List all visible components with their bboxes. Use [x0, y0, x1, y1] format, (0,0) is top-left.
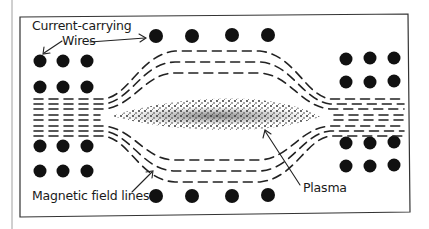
wires-left-block: [34, 55, 94, 178]
wires-top-row: [149, 28, 275, 43]
wires-right-block: [340, 52, 401, 173]
label-wires-line1: Current-carrying: [32, 18, 132, 33]
label-magnetic-field-lines: Magnetic field lines: [32, 188, 149, 203]
plasma: [112, 98, 320, 130]
label-plasma: Plasma: [303, 180, 347, 195]
label-wires-line2: Wires: [62, 33, 96, 48]
wires-bottom-row: [149, 188, 275, 203]
